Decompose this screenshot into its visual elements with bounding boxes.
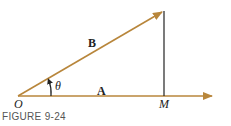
figure-caption: FIGURE 9-24 [2, 111, 66, 122]
angle-arc-icon [49, 81, 51, 96]
vector-b-line [18, 12, 162, 96]
angle-label: θ [55, 79, 61, 93]
vector-projection-diagram: B A θ O M [0, 0, 231, 126]
foot-label: M [158, 97, 170, 111]
origin-label: O [14, 97, 23, 111]
vector-b-label: B [88, 36, 96, 50]
vector-a-label: A [97, 84, 106, 98]
